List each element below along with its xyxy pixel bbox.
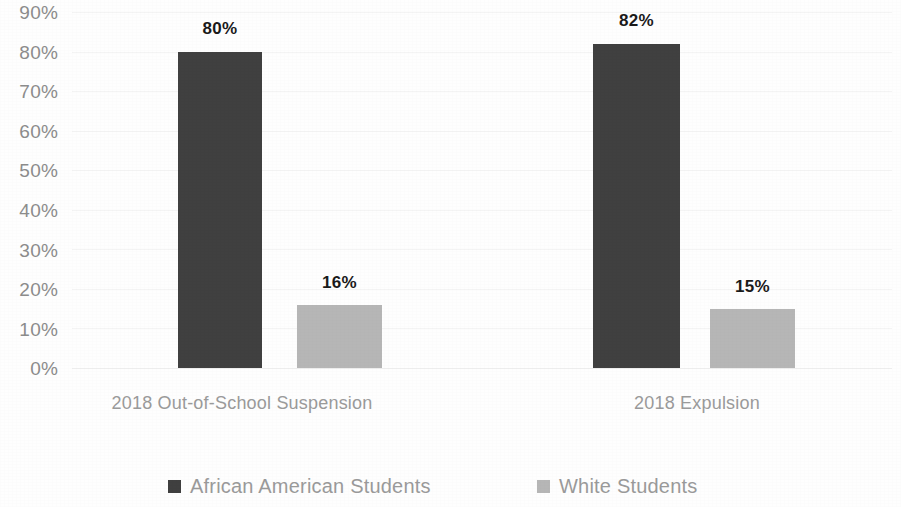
y-axis-tick-label: 50% [0,161,58,180]
legend-label: White Students [559,474,697,498]
bar-value-label: 82% [593,12,680,29]
bar-african-american-suspension[interactable] [178,52,262,368]
bar-african-american-expulsion[interactable] [593,44,680,368]
bar-value-label: 16% [297,274,382,291]
bar-chart: 90% 80% 70% 60% 50% 40% 30% 20% 10% 0% 8… [0,0,901,507]
y-axis-tick-label: 20% [0,280,58,299]
legend-swatch-dark-icon [168,480,181,493]
y-axis-tick-label: 90% [0,3,58,22]
bar-value-label: 80% [178,20,262,37]
y-axis-tick-label: 0% [0,359,58,378]
bar-white-suspension[interactable] [297,305,382,368]
y-axis-tick-label: 60% [0,122,58,141]
bar-white-expulsion[interactable] [710,309,795,368]
legend-swatch-light-icon [537,480,550,493]
axis-baseline [72,368,892,369]
legend-item-white-students[interactable]: White Students [537,474,697,498]
gridline [72,12,892,13]
x-axis-category-label-suspension: 2018 Out-of-School Suspension [72,392,412,414]
legend: African American Students White Students [0,474,901,504]
legend-label: African American Students [190,474,431,498]
y-axis-tick-label: 80% [0,43,58,62]
y-axis-tick-label: 40% [0,201,58,220]
y-axis-tick-label: 30% [0,241,58,260]
x-axis-category-label-expulsion: 2018 Expulsion [527,392,867,414]
plot-area [72,12,892,368]
y-axis-tick-label: 70% [0,82,58,101]
y-axis-tick-label: 10% [0,320,58,339]
legend-item-african-american-students[interactable]: African American Students [168,474,431,498]
bar-value-label: 15% [710,278,795,295]
